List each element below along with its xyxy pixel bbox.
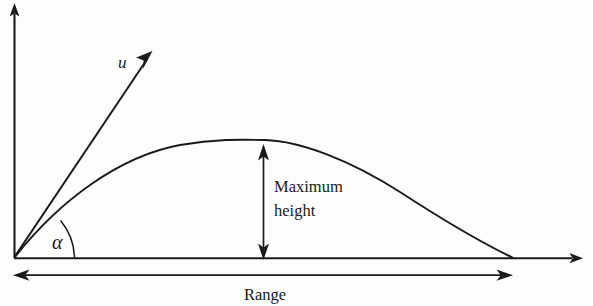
projectile-motion-figure: u α Maximum height Range: [0, 0, 593, 306]
launch-angle-label: α: [52, 231, 63, 253]
launch-angle-arc-group: [61, 221, 75, 259]
launch-angle-arc: [61, 221, 75, 259]
range-dimension: [13, 270, 513, 281]
initial-velocity-label: u: [118, 53, 127, 72]
maximum-height-dimension: [258, 144, 269, 260]
initial-velocity-vector: [15, 51, 153, 257]
maximum-height-label-line1: Maximum: [274, 177, 343, 196]
axes-group: [10, 3, 583, 263]
projectile-diagram-svg: u α Maximum height Range: [0, 0, 593, 306]
velocity-vector-arrowhead-icon: [136, 51, 152, 69]
range-label: Range: [244, 285, 286, 304]
maximum-height-label-line2: height: [274, 201, 316, 220]
velocity-vector-shaft: [15, 59, 148, 258]
